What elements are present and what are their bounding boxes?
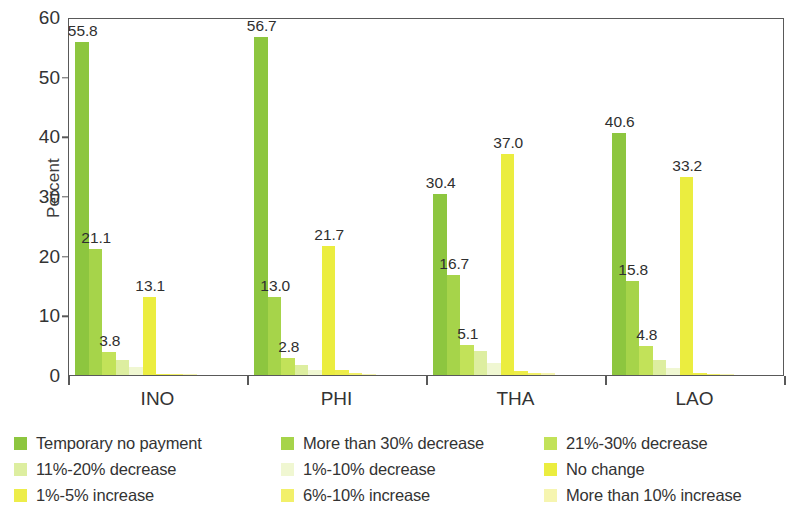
bar-value-label: 55.8	[68, 22, 98, 40]
legend-swatch-icon	[544, 489, 557, 502]
bar	[183, 374, 197, 375]
bar	[170, 374, 184, 375]
bar	[102, 352, 116, 375]
bar	[680, 177, 694, 375]
bar	[156, 374, 170, 375]
bar	[474, 351, 488, 375]
x-category-label: LAO	[675, 388, 713, 410]
bar-group: 56.713.02.821.7	[248, 19, 427, 375]
bar	[666, 368, 680, 375]
legend-item[interactable]: More than 30% decrease	[281, 434, 544, 453]
bar-value-label: 2.8	[278, 338, 299, 356]
bar	[639, 346, 653, 375]
legend-item[interactable]: 21%-30% decrease	[544, 434, 796, 453]
y-tick-label: 40	[4, 126, 60, 148]
legend-label: 1%-10% decrease	[303, 460, 436, 479]
legend-label: More than 30% decrease	[303, 434, 484, 453]
legend-label: No change	[566, 460, 644, 479]
legend-swatch-icon	[14, 463, 27, 476]
y-tick-label: 0	[4, 365, 60, 387]
bar-value-label: 56.7	[247, 17, 277, 35]
bar-value-label: 13.0	[260, 277, 290, 295]
bar	[268, 297, 282, 375]
bar	[116, 360, 130, 376]
legend-label: 1%-5% increase	[36, 486, 154, 505]
legend-item[interactable]: No change	[544, 460, 796, 479]
bar	[129, 367, 143, 375]
legend-swatch-icon	[281, 437, 294, 450]
legend-swatch-icon	[281, 489, 294, 502]
y-tick-label: 10	[4, 305, 60, 327]
x-category-label: PHI	[321, 388, 353, 410]
bar-group: 40.615.84.833.2	[606, 19, 785, 375]
bars-container: 55.821.13.813.156.713.02.821.730.416.75.…	[69, 19, 783, 375]
legend-row: 1%-5% increase6%-10% increaseMore than 1…	[14, 482, 796, 508]
legend-item[interactable]: 6%-10% increase	[281, 486, 544, 505]
y-tick-label: 50	[4, 67, 60, 89]
bar	[75, 42, 89, 375]
bar	[541, 373, 555, 375]
bar-value-label: 21.7	[314, 226, 344, 244]
legend-label: 21%-30% decrease	[566, 434, 708, 453]
bar-value-label: 30.4	[426, 174, 456, 192]
plot-area: 55.821.13.813.156.713.02.821.730.416.75.…	[68, 18, 784, 376]
x-category-label: THA	[497, 388, 535, 410]
bar	[460, 345, 474, 375]
bar	[514, 371, 528, 375]
bar	[143, 297, 157, 375]
bar	[693, 373, 707, 375]
x-tick-mark	[426, 376, 428, 385]
legend-item[interactable]: 11%-20% decrease	[14, 460, 281, 479]
legend-swatch-icon	[281, 463, 294, 476]
bar	[308, 370, 322, 375]
legend-swatch-icon	[544, 437, 557, 450]
x-category-label: INO	[141, 388, 175, 410]
legend-label: 11%-20% decrease	[36, 460, 176, 479]
chart-legend: Temporary no paymentMore than 30% decrea…	[14, 430, 796, 508]
bar	[707, 374, 721, 375]
bar	[720, 374, 734, 375]
bar	[362, 374, 376, 375]
y-tick-label: 30	[4, 186, 60, 208]
x-tick-mark	[68, 376, 70, 385]
bar-value-label: 4.8	[636, 326, 657, 344]
bar	[254, 37, 268, 375]
bar-value-label: 13.1	[135, 277, 165, 295]
y-tick-label: 60	[4, 7, 60, 29]
legend-swatch-icon	[14, 489, 27, 502]
x-tick-mark	[605, 376, 607, 385]
bar	[612, 133, 626, 375]
bar	[281, 358, 295, 375]
bar-group: 30.416.75.137.0	[427, 19, 606, 375]
bar	[433, 194, 447, 375]
bar-chart: Percent 0102030405060 55.821.13.813.156.…	[0, 0, 796, 512]
bar	[89, 249, 103, 375]
bar	[322, 246, 336, 375]
legend-item[interactable]: 1%-10% decrease	[281, 460, 544, 479]
bar	[295, 365, 309, 375]
x-tick-mark	[247, 376, 249, 385]
bar-group: 55.821.13.813.1	[69, 19, 248, 375]
bar-value-label: 21.1	[81, 229, 111, 247]
bar-value-label: 15.8	[618, 261, 648, 279]
bar	[653, 360, 667, 375]
legend-row: Temporary no paymentMore than 30% decrea…	[14, 430, 796, 456]
legend-swatch-icon	[14, 437, 27, 450]
legend-item[interactable]: More than 10% increase	[544, 486, 796, 505]
legend-item[interactable]: 1%-5% increase	[14, 486, 281, 505]
bar-value-label: 5.1	[457, 325, 478, 343]
bar-value-label: 40.6	[605, 113, 635, 131]
bar	[349, 373, 363, 375]
bar	[487, 363, 501, 375]
y-tick-label: 20	[4, 246, 60, 268]
bar	[335, 370, 349, 375]
bar	[501, 154, 515, 375]
legend-label: Temporary no payment	[36, 434, 202, 453]
legend-item[interactable]: Temporary no payment	[14, 434, 281, 453]
x-tick-mark	[784, 376, 786, 385]
bar-value-label: 33.2	[672, 157, 702, 175]
bar-value-label: 3.8	[99, 332, 120, 350]
legend-label: More than 10% increase	[566, 486, 742, 505]
legend-swatch-icon	[544, 463, 557, 476]
bar-value-label: 37.0	[493, 134, 523, 152]
